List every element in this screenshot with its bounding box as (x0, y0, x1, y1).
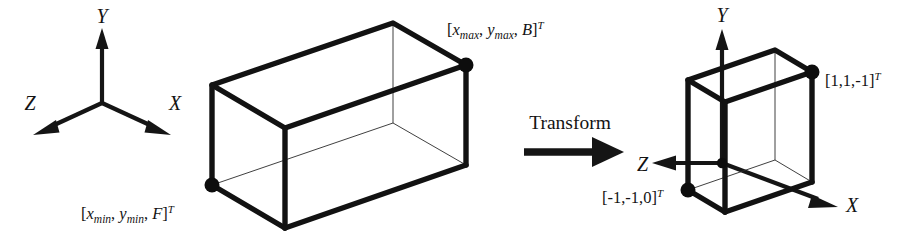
corner-dot-min-left (205, 178, 220, 193)
canonical-view-volume-box (681, 50, 820, 212)
label-min-corner-left: [xmin, ymin, F]T (81, 203, 175, 225)
label-max-corner-right: [1,1,-1]T (825, 70, 881, 90)
axis-x-left (102, 103, 171, 135)
figure-root: Y Z X [xmax, ymax, B]T (0, 0, 915, 246)
axis-label-x-right: X (845, 194, 859, 216)
axis-label-y-left: Y (96, 5, 109, 27)
axis-label-y-right: Y (716, 4, 729, 26)
axis-y-left (96, 28, 109, 103)
origin-dot-right (717, 158, 727, 168)
axis-x-right (722, 163, 838, 208)
corner-dot-max-left (459, 58, 474, 73)
figure-canvas: Y Z X [xmax, ymax, B]T (0, 0, 915, 246)
transform-label: Transform (529, 112, 611, 133)
axis-z-left (33, 103, 102, 135)
corner-dot-max-right (805, 65, 820, 80)
view-volume-box (205, 23, 474, 228)
label-min-corner-right: [-1,-1,0]T (602, 187, 664, 207)
axis-label-z-left: Z (24, 92, 36, 114)
axis-label-x-left: X (168, 92, 182, 114)
corner-dot-min-right (681, 183, 696, 198)
world-coordinate-axes: Y Z X (24, 5, 181, 135)
label-max-corner-left: [xmax, ymax, B]T (447, 19, 545, 41)
axis-label-z-right: Z (637, 153, 649, 175)
canonical-coordinate-axes: Y Z X (637, 4, 859, 216)
transform-arrow: Transform (524, 112, 624, 167)
